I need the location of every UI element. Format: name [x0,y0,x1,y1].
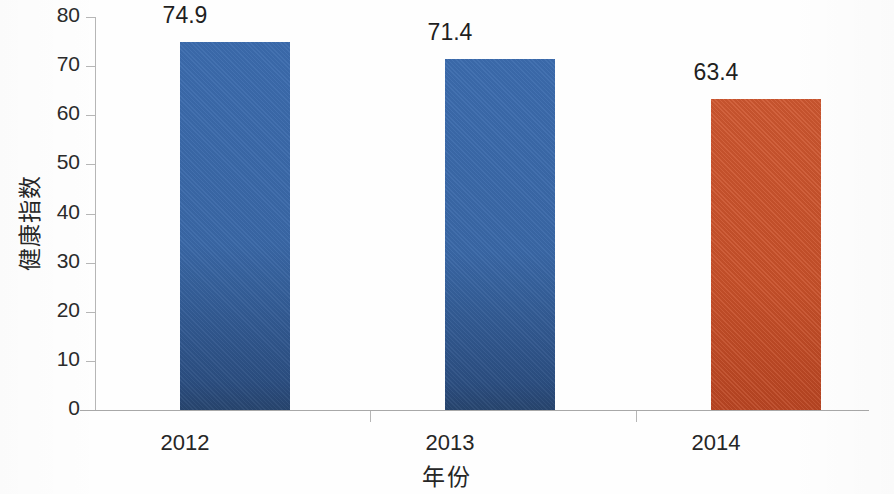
y-tick-mark [86,164,95,165]
chart-screenshot: 健康指数 80 70 60 50 40 30 20 10 0 [0,0,894,494]
x-axis-line [80,410,869,411]
y-tick-mark [86,66,95,67]
x-category-label-2012: 2012 [130,430,240,456]
bar-value-2014: 63.4 [661,59,771,86]
bar-value-2013: 71.4 [395,19,505,46]
x-tick-mark [636,411,637,422]
y-tick-mark [86,17,95,18]
bar-2014[interactable] [711,99,821,410]
bar-value-2012: 74.9 [130,2,240,29]
x-category-label-2013: 2013 [395,430,505,456]
y-tick-mark [86,361,95,362]
y-tick-mark [86,214,95,215]
y-tick-label-10: 10 [10,347,80,371]
y-tick-mark [86,312,95,313]
y-tick-label-40: 40 [10,200,80,224]
y-tick-label-30: 30 [10,249,80,273]
bar-2012[interactable] [180,42,290,410]
y-tick-label-80: 80 [10,3,80,27]
y-tick-label-60: 60 [10,101,80,125]
y-tick-mark [86,115,95,116]
x-tick-mark [370,411,371,422]
x-category-label-2014: 2014 [661,430,771,456]
y-tick-mark [86,263,95,264]
bar-2013[interactable] [445,59,555,410]
bar-chart: 健康指数 80 70 60 50 40 30 20 10 0 [0,0,894,494]
y-tick-label-0: 0 [10,396,80,420]
y-tick-label-50: 50 [10,150,80,174]
y-tick-label-20: 20 [10,298,80,322]
y-tick-label-70: 70 [10,52,80,76]
x-axis-title: 年份 [0,458,894,492]
